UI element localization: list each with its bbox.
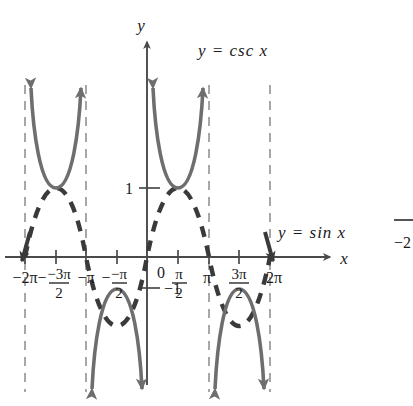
xtick-label-pi-2-numer: π [175,266,183,282]
xtick-label-neg-2pi: −2π [12,269,37,286]
edge-fragment-label: −2 [394,234,411,251]
xtick-label-3pi-2-numer: 3π [231,266,247,282]
sin-equation-label: y = sin x [276,223,346,242]
xtick-label-neg-3pi-2-sign: − [37,269,46,286]
xtick-label-neg-pi-2-numer: −π [111,266,127,282]
xtick-label-pi: π [203,269,211,286]
xtick-label-neg-pi: −π [77,269,94,286]
xtick-label-neg-3pi-2-numer: −3π [47,266,71,282]
xtick-label-3pi-2-denom: 2 [235,285,243,301]
x-axis-label: x [339,249,348,268]
y-axis-label: y [135,16,145,35]
xtick-label-neg-3pi-2-denom: 2 [55,285,63,301]
xtick-label-neg-pi-2-sign: − [101,269,110,286]
csc-equation-label: y = csc x [196,41,268,60]
ytick-label-1: 1 [125,180,133,197]
xtick-label-2pi: 2π [266,269,282,286]
coordinate-plane: y x y = csc x y = sin x 0 1 −1 −2π − −3π… [0,0,413,406]
origin-label: 0 [157,264,165,281]
canvas-background [0,0,413,406]
figure-csc-sin-graph: y x y = csc x y = sin x 0 1 −1 −2π − −3π… [0,0,413,406]
xtick-label-pi-2-denom: 2 [175,285,183,301]
xtick-label-neg-pi-2-denom: 2 [115,285,123,301]
